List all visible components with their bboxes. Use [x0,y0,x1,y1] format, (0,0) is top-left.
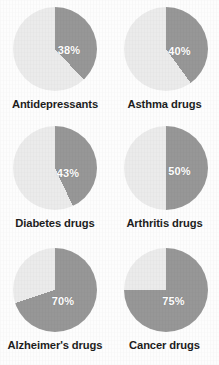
pie-arthritis-drugs [124,126,208,210]
pie-caption-diabetes-drugs: Diabetes drugs [15,217,94,229]
pie-value-label-cancer-drugs: 75% [162,295,185,307]
pie-chart-grid: 38% Antidepressants 40% Asthma drugs 43%… [0,0,219,365]
pie-caption-asthma-drugs: Asthma drugs [127,98,201,110]
pie-value-label-arthritis-drugs: 50% [168,165,191,177]
pie-chart-cell-asthma-drugs: 40% Asthma drugs [110,0,219,119]
pie-caption-alzheimers-drugs: Alzheimer's drugs [8,339,103,351]
pie-cancer-drugs [124,248,208,332]
pie-wrap-antidepressants: 38% [13,7,97,91]
pie-wrap-cancer-drugs: 75% [124,248,208,332]
pie-wrap-diabetes-drugs: 43% [13,126,97,210]
pie-value-label-asthma-drugs: 40% [168,45,191,57]
pie-chart-cell-antidepressants: 38% Antidepressants [0,0,110,119]
pie-chart-cell-alzheimers-drugs: 70% Alzheimer's drugs [0,241,110,365]
pie-value-label-diabetes-drugs: 43% [57,167,80,179]
pie-chart-cell-arthritis-drugs: 50% Arthritis drugs [110,119,219,241]
pie-caption-cancer-drugs: Cancer drugs [129,339,200,351]
pie-wrap-alzheimers-drugs: 70% [13,248,97,332]
pie-alzheimers-drugs [13,248,97,332]
pie-wrap-asthma-drugs: 40% [124,7,208,91]
pie-diabetes-drugs [13,126,97,210]
pie-value-label-antidepressants: 38% [58,44,81,56]
pie-chart-cell-diabetes-drugs: 43% Diabetes drugs [0,119,110,241]
pie-asthma-drugs [124,7,208,91]
pie-caption-arthritis-drugs: Arthritis drugs [126,217,202,229]
pie-wrap-arthritis-drugs: 50% [124,126,208,210]
pie-chart-cell-cancer-drugs: 75% Cancer drugs [110,241,219,365]
pie-caption-antidepressants: Antidepressants [12,98,98,110]
pie-value-label-alzheimers-drugs: 70% [52,295,75,307]
pie-antidepressants [13,7,97,91]
